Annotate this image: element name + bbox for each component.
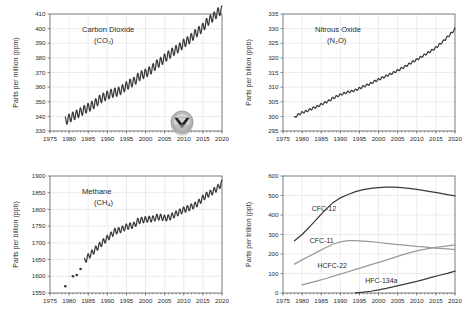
x-tick-label: 1985 <box>314 135 328 142</box>
x-tick-label: 2020 <box>215 297 229 304</box>
x-tick-label: 1975 <box>276 297 290 304</box>
x-tick-label: 2020 <box>448 297 462 304</box>
x-tick-label: 1990 <box>333 135 347 142</box>
x-tick-label: 1990 <box>333 297 347 304</box>
x-tick-label: 1985 <box>81 135 95 142</box>
x-tick-label: 1995 <box>353 297 367 304</box>
y-tick-label: 400 <box>35 25 46 32</box>
y-tick-label: 325 <box>268 39 279 46</box>
y-tick-label: 400 <box>268 211 279 218</box>
x-tick-label: 1995 <box>120 135 134 142</box>
y-tick-label: 310 <box>268 83 279 90</box>
x-tick-label: 2010 <box>177 297 191 304</box>
y-tick-label: 380 <box>35 54 46 61</box>
x-tick-label: 1995 <box>353 135 367 142</box>
axes: 2953003053103153203253303351975198019851… <box>268 10 462 142</box>
panel-subtitle: (CH₄) <box>94 198 114 207</box>
gridlines <box>283 176 455 293</box>
series-label-cfc-12: CFC-12 <box>312 205 337 212</box>
panel-n2o: 2953003053103153203253303351975198019851… <box>233 0 466 162</box>
y-tick-label: 100 <box>268 270 279 277</box>
y-tick-label: 1600 <box>32 272 46 279</box>
series-line-n2o <box>294 28 455 117</box>
panel-subtitle: (N₂O) <box>327 36 347 45</box>
y-tick-label: 340 <box>35 113 46 120</box>
x-tick-label: 1980 <box>295 135 309 142</box>
x-tick-label: 1990 <box>100 297 114 304</box>
x-tick-label: 1980 <box>62 135 76 142</box>
y-tick-label: 1900 <box>32 172 46 179</box>
data-series-group: CFC-12CFC-11HCFC-22HFC-134a <box>294 187 455 293</box>
panel-ch4: 1550160016501700175018001850190019751980… <box>0 162 233 324</box>
panel-subtitle: (CO₂) <box>94 36 114 45</box>
y-tick-label: 0 <box>275 289 279 296</box>
y-axis-title: Parts per million (ppm) <box>12 37 20 107</box>
y-tick-label: 600 <box>268 172 279 179</box>
y-tick-label: 1800 <box>32 206 46 213</box>
data-series-group <box>294 28 455 117</box>
x-tick-label: 2010 <box>410 135 424 142</box>
x-tick-label: 2015 <box>429 135 443 142</box>
data-series-group <box>65 6 222 124</box>
x-tick-label: 2000 <box>139 297 153 304</box>
series-line-co2 <box>65 6 222 124</box>
x-tick-label: 1975 <box>43 135 57 142</box>
x-tick-label: 2000 <box>372 297 386 304</box>
y-tick-label: 300 <box>268 113 279 120</box>
data-point <box>72 275 75 278</box>
data-series-group <box>64 180 222 287</box>
y-tick-label: 1700 <box>32 239 46 246</box>
series-line-cfc-12 <box>294 187 455 241</box>
data-point <box>64 285 67 288</box>
x-tick-label: 2015 <box>429 297 443 304</box>
y-tick-label: 1550 <box>32 289 46 296</box>
series-label-cfc-11: CFC-11 <box>310 237 334 244</box>
x-tick-label: 2005 <box>158 135 172 142</box>
y-tick-label: 1750 <box>32 222 46 229</box>
x-tick-label: 2020 <box>215 135 229 142</box>
y-tick-label: 335 <box>268 10 279 17</box>
x-tick-label: 2005 <box>391 297 405 304</box>
noaa-logo <box>171 111 193 136</box>
x-tick-label: 1975 <box>43 297 57 304</box>
x-tick-label: 2005 <box>158 297 172 304</box>
y-axis-title: Parts per trillion (ppt) <box>245 202 253 267</box>
y-tick-label: 330 <box>35 127 46 134</box>
y-tick-label: 330 <box>268 25 279 32</box>
x-tick-label: 1980 <box>62 297 76 304</box>
x-tick-label: 2010 <box>177 135 191 142</box>
x-tick-label: 1985 <box>81 297 95 304</box>
x-tick-label: 1990 <box>100 135 114 142</box>
gridlines <box>283 14 455 131</box>
y-tick-label: 200 <box>268 250 279 257</box>
y-tick-label: 500 <box>268 192 279 199</box>
x-tick-label: 2010 <box>410 297 424 304</box>
panel-co2: 3303403503603703803904004101975198019851… <box>0 0 233 162</box>
x-tick-label: 2015 <box>196 297 210 304</box>
panel-halocarbons: 0100200300400500600197519801985199019952… <box>233 162 466 324</box>
y-tick-label: 305 <box>268 98 279 105</box>
y-axis-title: Parts per billion (ppb) <box>12 201 20 268</box>
y-tick-label: 1850 <box>32 189 46 196</box>
y-tick-label: 300 <box>268 231 279 238</box>
x-tick-label: 2000 <box>372 135 386 142</box>
y-axis-title: Parts per billion (ppb) <box>245 39 253 106</box>
x-tick-label: 1975 <box>276 135 290 142</box>
data-point <box>79 268 82 271</box>
y-tick-label: 350 <box>35 98 46 105</box>
x-tick-label: 1995 <box>120 297 134 304</box>
series-label-hfc-134a: HFC-134a <box>365 277 397 284</box>
x-tick-label: 1985 <box>314 297 328 304</box>
greenhouse-gas-figure: 3303403503603703803904004101975198019851… <box>0 0 466 324</box>
x-tick-label: 2015 <box>196 135 210 142</box>
y-tick-label: 320 <box>268 54 279 61</box>
x-tick-label: 1980 <box>295 297 309 304</box>
series-label-hcfc-22: HCFC-22 <box>317 262 347 269</box>
data-point <box>75 274 78 277</box>
panel-title: Carbon Dioxide <box>82 25 134 34</box>
axes: 1550160016501700175018001850190019751980… <box>32 172 230 304</box>
y-tick-label: 315 <box>268 69 279 76</box>
x-tick-label: 2020 <box>448 135 462 142</box>
y-tick-label: 410 <box>35 10 46 17</box>
x-tick-label: 2005 <box>391 135 405 142</box>
